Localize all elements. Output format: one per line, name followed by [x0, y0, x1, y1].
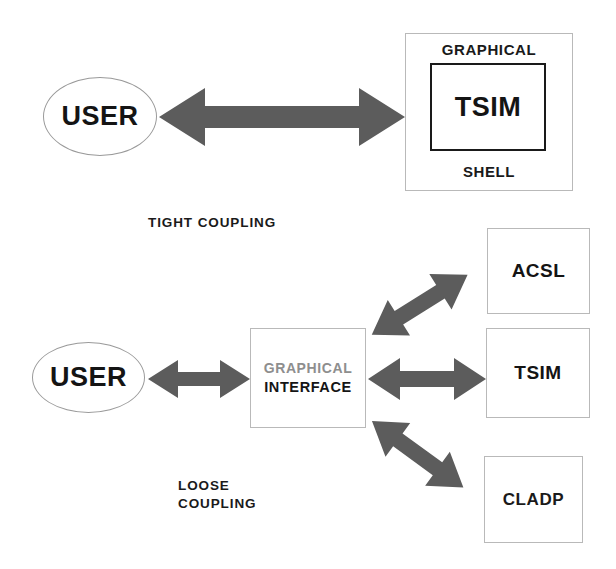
- graphical-interface-label-line1: GRAPHICAL: [251, 360, 365, 378]
- arrow-user-to-shell: [159, 88, 405, 146]
- tsim-box-loose-label: TSIM: [514, 362, 561, 384]
- loose-coupling-caption-line1: LOOSE: [178, 477, 230, 495]
- arrow-interface-to-acsl: [361, 257, 479, 352]
- user-node-loose[interactable]: USER: [32, 342, 145, 413]
- arrow-interface-to-cladp: [360, 404, 476, 504]
- graphical-shell-top-label: GRAPHICAL: [405, 41, 573, 58]
- tsim-inner-box[interactable]: TSIM: [430, 63, 546, 151]
- graphical-interface-box[interactable]: GRAPHICAL INTERFACE: [250, 328, 366, 428]
- acsl-box[interactable]: ACSL: [487, 228, 590, 314]
- tsim-box-loose[interactable]: TSIM: [486, 328, 590, 418]
- tight-coupling-caption: TIGHT COUPLING: [148, 214, 276, 232]
- user-node-loose-label: USER: [50, 362, 127, 393]
- acsl-box-label: ACSL: [512, 260, 566, 282]
- cladp-box[interactable]: CLADP: [484, 456, 583, 543]
- graphical-interface-label-line2: INTERFACE: [251, 378, 365, 396]
- user-node-tight[interactable]: USER: [43, 77, 157, 156]
- diagram-canvas: USER GRAPHICAL TSIM SHELL TIGHT COUPLING…: [0, 0, 616, 569]
- cladp-box-label: CLADP: [503, 490, 565, 510]
- graphical-shell-bottom-label: SHELL: [405, 163, 573, 180]
- loose-coupling-caption-line2: COUPLING: [178, 495, 256, 513]
- arrow-user-to-interface: [148, 360, 250, 398]
- tsim-inner-box-label: TSIM: [455, 92, 522, 123]
- arrow-interface-to-tsim: [368, 358, 486, 400]
- user-node-tight-label: USER: [61, 101, 138, 132]
